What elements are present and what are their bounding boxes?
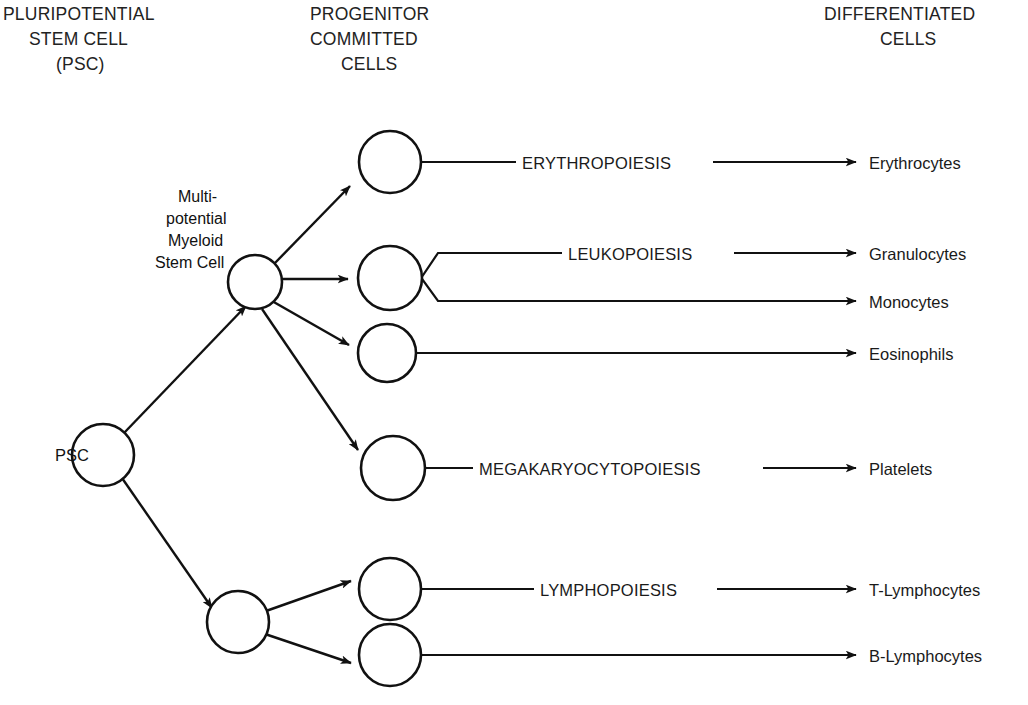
node-label-psc: PSC [55,446,89,464]
header-line-differentiated-2: CELLS [880,29,936,49]
diagram-canvas: PLURIPOTENTIAL STEM CELL (PSC) PROGENITO… [0,0,1028,705]
hematopoiesis-diagram: PLURIPOTENTIAL STEM CELL (PSC) PROGENITO… [0,0,1028,705]
pathway-row-megakaryocytopoiesis: MEGAKARYOCYTOPOIESIS Platelets [424,456,932,480]
node-label-myeloid-stem-cell: Multi- potential Myeloid Stem Cell [155,188,227,271]
column-header-pluripotential: PLURIPOTENTIAL STEM CELL (PSC) [3,4,155,74]
pathway-row-lymphopoiesis: LYMPHOPOIESIS T-Lymphocytes [421,577,980,601]
output-label-t-lymphocytes: T-Lymphocytes [869,581,980,599]
output-label-monocytes: Monocytes [869,293,949,311]
column-header-differentiated: DIFFERENTIATED CELLS [824,4,975,49]
column-header-progenitor: PROGENITOR COMMITTED CELLS [310,4,429,74]
node-b-lymphocyte-progenitor[interactable] [359,624,421,686]
myeloid-label-line-2: potential [166,210,227,227]
edge-psc-to-lymphoid-stem [122,478,212,608]
header-line-progenitor-3: CELLS [341,54,397,74]
output-label-b-lymphocytes: B-Lymphocytes [869,647,982,665]
output-label-platelets: Platelets [869,460,932,478]
edges-from-lymphoid-stem [265,581,351,663]
node-lymphoid-stem-cell[interactable] [207,591,269,653]
myeloid-label-line-3: Myeloid [168,232,223,249]
pathway-row-b-lymphocytes: B-Lymphocytes [421,647,982,665]
node-leukocyte-progenitor[interactable] [358,246,422,310]
output-label-eosinophils: Eosinophils [869,345,953,363]
pathway-row-erythropoiesis: ERYTHROPOIESIS Erythrocytes [421,150,961,174]
edge-myeloid-to-erythroid [274,186,350,264]
pathway-row-eosinophils: Eosinophils [415,345,953,363]
edges-from-myeloid-stem [262,186,358,450]
header-line-progenitor-2: COMMITTED [310,29,418,49]
edge-myeloid-to-megakaryocyte [262,309,358,450]
myeloid-label-line-1: Multi- [178,188,217,205]
header-line-differentiated-1: DIFFERENTIATED [824,4,975,24]
output-label-erythrocytes: Erythrocytes [869,154,961,172]
pathway-label-leukopoiesis: LEUKOPOIESIS [568,245,692,263]
pathway-row-leukopoiesis: LEUKOPOIESIS Granulocytes Monocytes [409,241,966,311]
pathway-label-megakaryocytopoiesis: MEGAKARYOCYTOPOIESIS [479,460,701,478]
header-line-pluripotential-2: STEM CELL [29,29,128,49]
node-eosinophil-progenitor[interactable] [358,324,416,382]
pathway-label-lymphopoiesis: LYMPHOPOIESIS [540,581,677,599]
header-line-pluripotential-1: PLURIPOTENTIAL [3,4,155,24]
edge-myeloid-to-eosinophil [272,301,349,345]
pathway-line-monocytes [409,261,856,301]
edge-psc-to-myeloid-stem [124,306,246,433]
edges-from-psc [122,306,246,608]
header-line-pluripotential-3: (PSC) [56,54,105,74]
myeloid-label-line-4: Stem Cell [155,254,224,271]
header-line-progenitor-1: PROGENITOR [310,4,429,24]
node-t-lymphocyte-progenitor[interactable] [359,558,421,620]
edge-lymphoid-to-b-progenitor [265,634,351,663]
node-erythroid-progenitor[interactable] [359,131,421,193]
pathway-label-erythropoiesis: ERYTHROPOIESIS [522,154,671,172]
edge-lymphoid-to-t-progenitor [266,581,351,611]
node-myeloid-stem-cell[interactable] [228,255,282,309]
node-megakaryocyte-progenitor[interactable] [361,436,425,500]
output-label-granulocytes: Granulocytes [869,245,966,263]
